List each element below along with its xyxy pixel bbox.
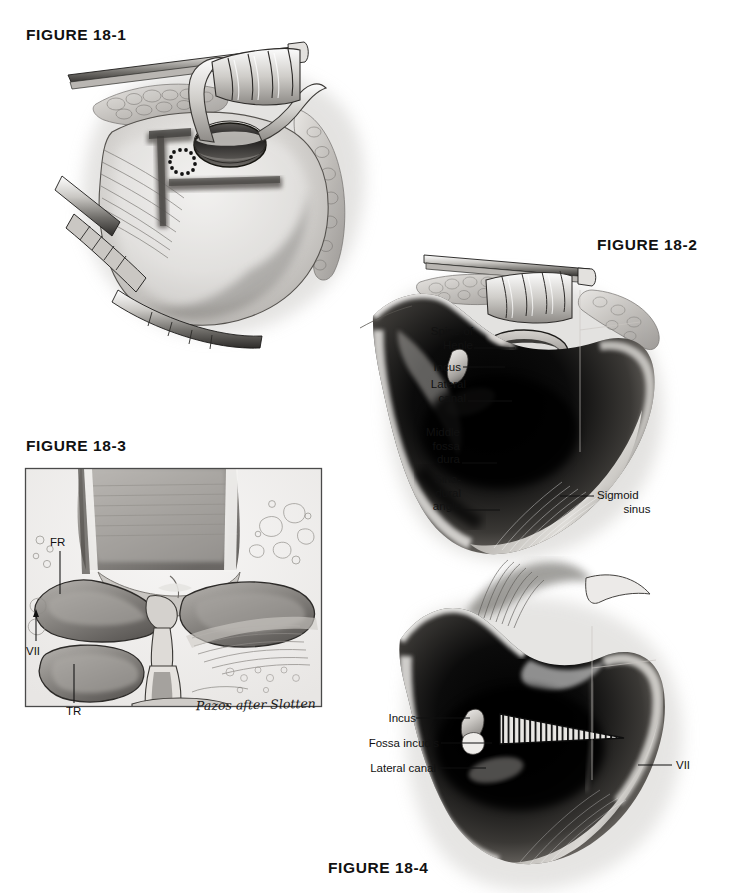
label-lateral-canal-fig2: Lateral canal: [363, 378, 466, 405]
label-lateral-canal-fig4-text: Lateral canal: [341, 762, 436, 776]
label-sino-dural-angle: Sino- dural angle: [358, 473, 461, 514]
label-vii-fig3-text: VII: [26, 645, 40, 659]
artist-signature: Pazos after Slotten: [196, 696, 316, 714]
label-incus-fig4: Incus: [346, 712, 416, 726]
label-middle-fossa-dura-line2: fossa: [358, 440, 460, 454]
label-fossa-incudis-text: Fossa incudis: [341, 737, 439, 751]
label-vii-fig4-text: VII: [676, 759, 690, 773]
label-middle-fossa-dura: Middle fossa dura: [358, 426, 460, 467]
label-fossa-incudis: Fossa incudis: [341, 737, 439, 751]
label-tr-text: TR: [66, 705, 81, 719]
label-fr-text: FR: [50, 536, 65, 550]
label-incus-fig2: Incus: [363, 361, 461, 375]
figure-18-4-caption: FIGURE 18-4: [328, 859, 429, 877]
label-incus-fig4-text: Incus: [346, 712, 416, 726]
label-lateral-canal-fig2-line1: Lateral: [363, 378, 466, 392]
figure-18-4-artwork: [399, 560, 682, 891]
figure-18-3-caption: FIGURE 18-3: [26, 437, 127, 455]
label-fr: FR: [50, 536, 65, 550]
label-incus-fig2-line1: Incus: [363, 361, 461, 375]
label-sino-dural-angle-line3: angle: [358, 500, 461, 514]
label-spine-of-henle: Spine of Henle: [363, 325, 473, 352]
label-lateral-canal-fig2-line2: canal: [363, 392, 466, 406]
label-sino-dural-angle-line1: Sino-: [358, 473, 461, 487]
figure-18-3-artwork: [26, 469, 322, 721]
figure-18-1-artwork: [55, 42, 365, 349]
label-vii-fig4: VII: [676, 759, 690, 773]
figure-18-2-caption: FIGURE 18-2: [597, 236, 698, 254]
label-vii-fig3: VII: [26, 645, 40, 659]
label-middle-fossa-dura-line1: Middle: [358, 426, 460, 440]
figure-18-1-caption: FIGURE 18-1: [26, 26, 127, 44]
label-tr: TR: [66, 705, 81, 719]
label-lateral-canal-fig4: Lateral canal: [341, 762, 436, 776]
label-spine-of-henle-line2: Henle: [363, 339, 473, 353]
label-sigmoid-sinus: Sigmoid sinus: [597, 489, 677, 516]
label-sino-dural-angle-line2: dural: [358, 487, 461, 501]
label-sigmoid-sinus-line1: Sigmoid: [597, 489, 677, 503]
label-middle-fossa-dura-line3: dura: [358, 453, 460, 467]
retracted-flap: [212, 49, 300, 105]
label-spine-of-henle-line1: Spine of: [363, 325, 473, 339]
label-sigmoid-sinus-line2: sinus: [597, 503, 677, 517]
